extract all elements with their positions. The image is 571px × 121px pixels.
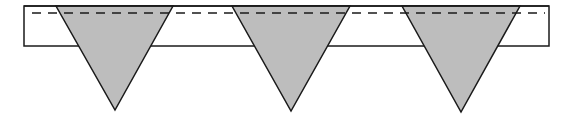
triangle-group — [56, 6, 520, 112]
triangle-1 — [56, 6, 173, 110]
diagram-canvas — [0, 0, 571, 121]
triangle-3 — [402, 6, 520, 112]
triangle-2 — [232, 6, 350, 111]
